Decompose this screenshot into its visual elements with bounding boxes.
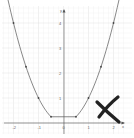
data-point (113, 22, 115, 24)
axes (4, 9, 125, 134)
graph-chart: -2-10121234 x y (0, 0, 134, 138)
x-tick-label: -2 (13, 125, 17, 130)
data-point (100, 66, 102, 68)
data-point (88, 97, 90, 99)
y-axis-arrow-icon (63, 9, 66, 13)
data-point (25, 66, 27, 68)
cross-mark-icon (97, 97, 119, 122)
data-point (38, 97, 40, 99)
x-axis-name: x (122, 124, 124, 129)
x-tick-label: 2 (113, 125, 116, 130)
data-point (50, 116, 52, 118)
x-tick-label: 1 (88, 125, 91, 130)
x-tick-label: 0 (63, 125, 66, 130)
y-axis-name: y (60, 8, 62, 13)
data-point (13, 22, 15, 24)
data-point (75, 116, 77, 118)
x-tick-label: -1 (38, 125, 42, 130)
